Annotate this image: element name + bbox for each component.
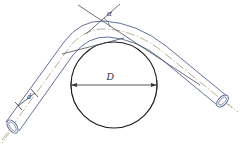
bent-pipe-diagram: α D d: [0, 0, 243, 154]
bend-angle-label: α: [107, 8, 112, 18]
mandrel-diameter-label: D: [105, 71, 114, 82]
technical-diagram-canvas: α D d: [0, 0, 243, 154]
diagram-background: [0, 0, 243, 154]
